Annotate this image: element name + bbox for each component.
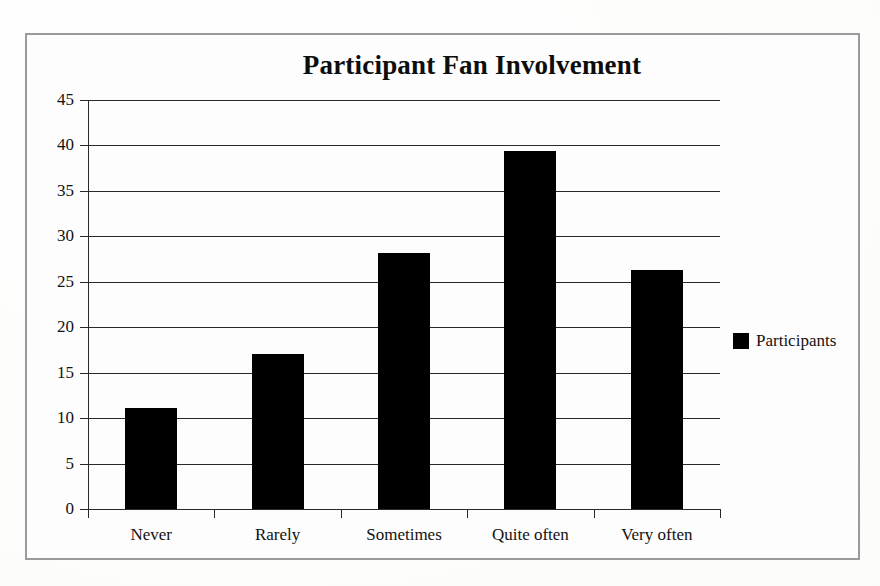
figure-page: Participant Fan Involvement 051015202530… — [0, 0, 880, 586]
x-axis-tick — [594, 509, 595, 518]
x-axis-baseline — [88, 509, 720, 510]
x-axis-tick — [214, 509, 215, 518]
x-axis-tick — [467, 509, 468, 518]
y-axis-tick-label: 35 — [57, 180, 74, 200]
y-axis-line — [88, 100, 89, 509]
x-axis-category-label: Never — [130, 525, 172, 545]
chart-frame: Participant Fan Involvement 051015202530… — [25, 33, 860, 560]
y-axis-tick-label: 5 — [66, 453, 75, 473]
y-axis-tick-label: 20 — [57, 317, 74, 337]
y-axis-tick-label: 40 — [57, 135, 74, 155]
bar-never — [125, 408, 177, 509]
legend-entry-label: Participants — [756, 331, 836, 351]
y-axis-tick — [80, 327, 88, 328]
y-axis-tick-label: 10 — [57, 408, 74, 428]
bar-sometimes — [378, 253, 430, 509]
y-axis-tick — [80, 100, 88, 101]
x-axis-category-label: Very often — [621, 525, 692, 545]
gridline — [88, 236, 720, 237]
bar-quite-often — [504, 151, 556, 509]
y-axis-tick — [80, 236, 88, 237]
x-axis-category-label: Sometimes — [366, 525, 442, 545]
y-axis-tick — [80, 464, 88, 465]
y-axis-tick — [80, 282, 88, 283]
x-axis-category-label: Rarely — [255, 525, 300, 545]
gridline — [88, 100, 720, 101]
x-axis-tick — [341, 509, 342, 518]
y-axis-tick-label: 30 — [57, 226, 74, 246]
y-axis-tick — [80, 145, 88, 146]
y-axis-tick — [80, 373, 88, 374]
y-axis-tick — [80, 191, 88, 192]
y-axis-tick-label: 0 — [66, 499, 75, 519]
chart-title: Participant Fan Involvement — [127, 50, 817, 81]
bar-rarely — [252, 354, 304, 509]
plot-area: 051015202530354045 NeverRarelySometimesQ… — [88, 100, 720, 509]
bar-very-often — [631, 270, 683, 509]
x-axis-tick — [720, 509, 721, 518]
y-axis-tick-label: 25 — [57, 271, 74, 291]
gridline — [88, 145, 720, 146]
y-axis-tick — [80, 509, 88, 510]
legend-color-swatch — [733, 333, 749, 349]
y-axis-tick — [80, 418, 88, 419]
x-axis-category-label: Quite often — [492, 525, 569, 545]
y-axis-tick-label: 15 — [57, 362, 74, 382]
y-axis-tick-label: 45 — [57, 90, 74, 110]
gridline — [88, 191, 720, 192]
chart-legend: Participants — [733, 331, 836, 351]
x-axis-tick — [88, 509, 89, 518]
